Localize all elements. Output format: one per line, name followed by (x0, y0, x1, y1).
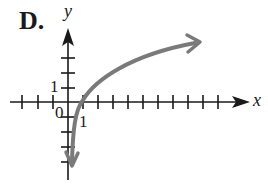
y-tick-label-1: 1 (50, 78, 59, 95)
option-label: D. (19, 8, 44, 34)
origin-label: 0 (55, 104, 64, 121)
x-axis (10, 95, 240, 109)
y-axis-label: y (64, 2, 72, 20)
x-tick-label-1: 1 (79, 113, 88, 130)
x-axis-label: x (253, 91, 261, 109)
